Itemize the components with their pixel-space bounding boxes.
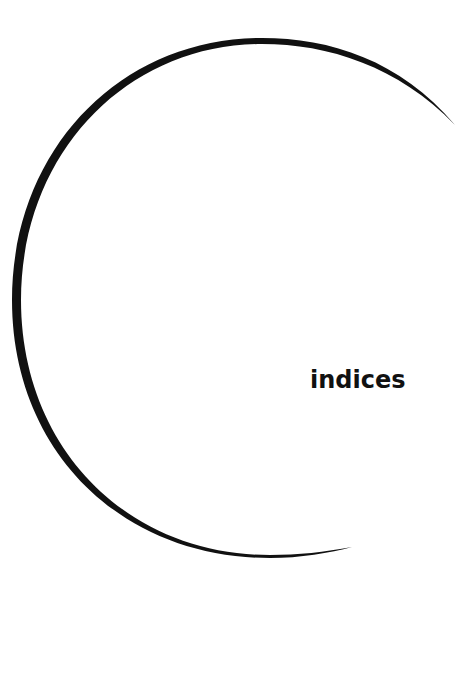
indices-label: indices: [310, 366, 406, 394]
crescent-arc: [0, 0, 467, 691]
